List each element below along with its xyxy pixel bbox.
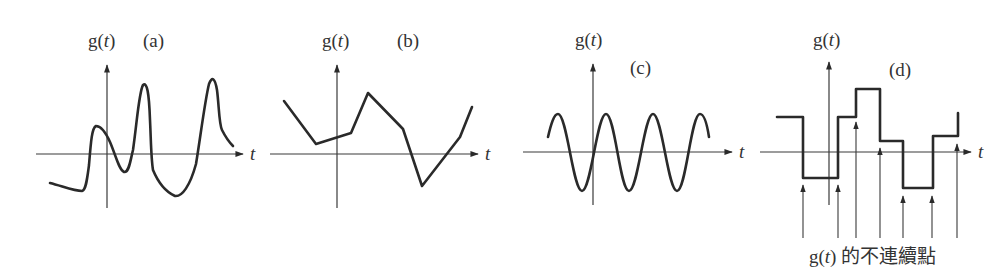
panel-b: g(t) (b) t <box>270 30 491 208</box>
discontinuity-caption: g(t) 的不連續點 <box>809 246 936 268</box>
panel-b-tag: (b) <box>397 30 419 52</box>
panel-a-waveform <box>50 79 233 196</box>
panel-c-x-label: t <box>739 141 745 162</box>
panel-a-y-label: g(t) <box>88 30 115 52</box>
panel-d: g(t) (d) t g(t) 的不連續點 <box>760 29 984 268</box>
signal-figure: g(t) (a) t g(t) (b) t g(t) (c) t <box>0 0 1006 278</box>
panel-a-tag: (a) <box>143 30 164 52</box>
panel-d-waveform <box>777 89 958 188</box>
panel-b-y-label: g(t) <box>322 30 349 52</box>
panel-c-tag: (c) <box>630 57 651 79</box>
panel-d-tag: (d) <box>889 59 911 81</box>
panel-d-y-label: g(t) <box>813 29 840 51</box>
panel-a-x-label: t <box>250 143 256 164</box>
panel-b-x-label: t <box>485 143 491 164</box>
panel-d-x-label: t <box>978 141 984 162</box>
panel-c-y-label: g(t) <box>575 29 602 51</box>
panel-b-waveform <box>284 93 472 186</box>
panel-a: g(t) (a) t <box>36 30 256 208</box>
panel-c: g(t) (c) t <box>523 29 745 205</box>
figure-canvas: g(t) (a) t g(t) (b) t g(t) (c) t <box>0 0 1006 278</box>
